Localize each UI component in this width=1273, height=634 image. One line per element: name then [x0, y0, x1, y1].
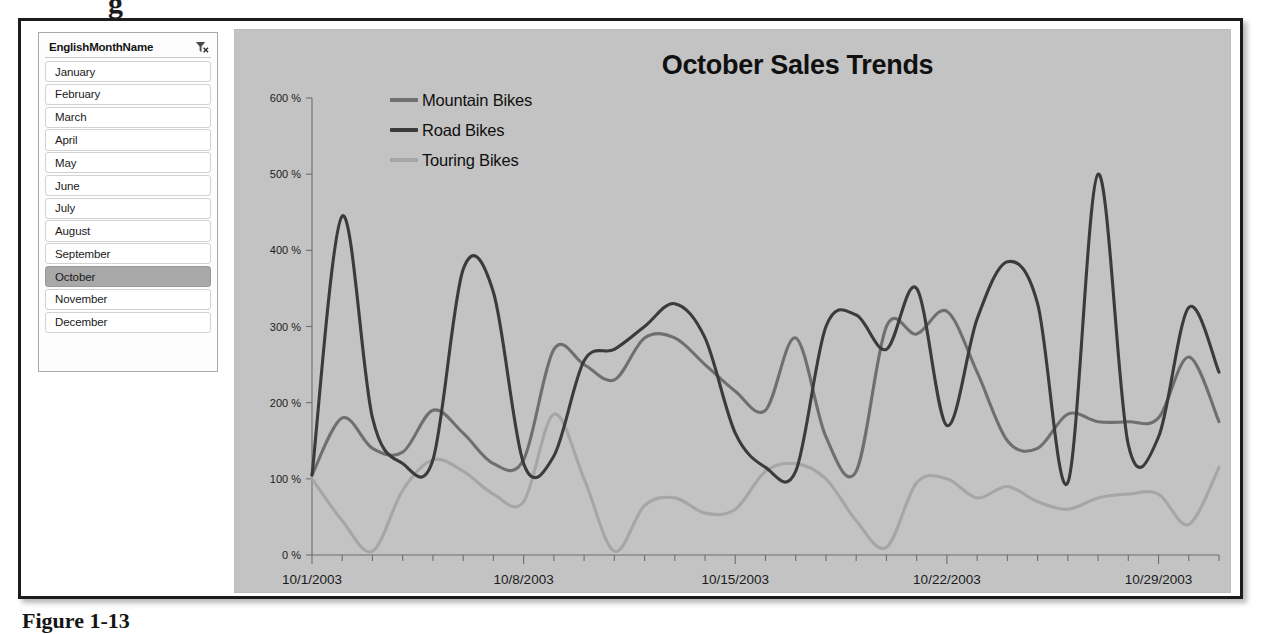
slicer-item-label: January	[55, 66, 95, 78]
slicer-item-list[interactable]: JanuaryFebruaryMarchAprilMayJuneJulyAugu…	[45, 61, 211, 333]
slicer-item-label: June	[55, 180, 80, 192]
slicer-title: EnglishMonthName	[49, 41, 153, 53]
series-line-touring-bikes	[312, 414, 1219, 552]
slicer-item-label: December	[55, 316, 107, 328]
slicer-item-label: November	[55, 293, 107, 305]
slicer-item-february[interactable]: February	[45, 84, 211, 105]
x-axis-tick-label: 10/8/2003	[494, 572, 554, 587]
slicer-header: EnglishMonthName	[45, 37, 211, 58]
slicer-item-label: February	[55, 88, 100, 100]
slicer-item-september[interactable]: September	[45, 243, 211, 264]
slicer-item-may[interactable]: May	[45, 152, 211, 173]
y-axis-tick-label: 100 %	[270, 473, 301, 485]
slicer-item-april[interactable]: April	[45, 129, 211, 150]
slicer-item-august[interactable]: August	[45, 220, 211, 241]
y-axis-tick-label: 200 %	[270, 397, 301, 409]
x-axis-tick-label: 10/1/2003	[282, 572, 342, 587]
slicer-item-june[interactable]: June	[45, 175, 211, 196]
figure-caption: Figure 1-13	[22, 608, 130, 634]
y-axis-tick-label: 500 %	[270, 168, 301, 180]
slicer-item-december[interactable]: December	[45, 312, 211, 333]
clear-filter-icon-svg	[194, 40, 209, 55]
clear-filter-icon[interactable]	[194, 40, 209, 55]
slicer-item-label: April	[55, 134, 78, 146]
slicer-item-july[interactable]: July	[45, 198, 211, 219]
figure-frame: EnglishMonthName JanuaryFebruaryMarchApr…	[18, 18, 1243, 599]
slicer-item-january[interactable]: January	[45, 61, 211, 82]
slicer-item-label: May	[55, 157, 76, 169]
x-axis-tick-label: 10/15/2003	[701, 572, 769, 587]
chart-plot-area: 0 %100 %200 %300 %400 %500 %600 %10/1/20…	[235, 30, 1231, 593]
x-axis-tick-label: 10/29/2003	[1125, 572, 1193, 587]
slicer-item-october[interactable]: October	[45, 266, 211, 287]
page-top-artifact: g	[108, 0, 123, 20]
month-slicer[interactable]: EnglishMonthName JanuaryFebruaryMarchApr…	[38, 32, 218, 372]
x-axis-tick-label: 10/22/2003	[913, 572, 981, 587]
slicer-item-march[interactable]: March	[45, 107, 211, 128]
slicer-item-label: August	[55, 225, 90, 237]
y-axis-tick-label: 600 %	[270, 92, 301, 104]
y-axis-tick-label: 300 %	[270, 321, 301, 333]
y-axis-tick-label: 0 %	[282, 549, 301, 561]
chart-panel: October Sales Trends Mountain BikesRoad …	[234, 29, 1231, 593]
slicer-item-label: July	[55, 202, 75, 214]
slicer-item-november[interactable]: November	[45, 289, 211, 310]
slicer-item-label: October	[55, 271, 95, 283]
y-axis-tick-label: 400 %	[270, 244, 301, 256]
slicer-item-label: March	[55, 111, 86, 123]
slicer-item-label: September	[55, 248, 110, 260]
series-line-road-bikes	[312, 174, 1219, 485]
